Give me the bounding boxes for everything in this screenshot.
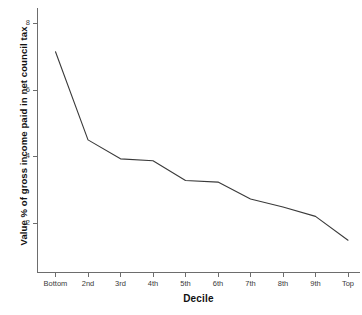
x-tick-label-6th: 6th — [213, 279, 223, 288]
plot-area: 8 6 4 2 Bottom 2nd 3rd 4th 5th 6th 7th — [0, 0, 362, 315]
x-axis-title: Decile — [37, 293, 360, 304]
x-tick-labels: Bottom 2nd 3rd 4th 5th 6th 7th 8th 9th T… — [44, 279, 354, 288]
data-series-line — [56, 52, 349, 241]
line-chart: 8 6 4 2 Bottom 2nd 3rd 4th 5th 6th 7th — [0, 0, 362, 315]
y-tick-marks — [33, 24, 38, 224]
x-tick-label-7th: 7th — [245, 279, 255, 288]
x-tick-label-9th: 9th — [310, 279, 320, 288]
x-tick-label-8th: 8th — [278, 279, 288, 288]
x-tick-label-2nd: 2nd — [82, 279, 95, 288]
x-tick-label-top: Top — [342, 279, 354, 288]
x-tick-label-5th: 5th — [180, 279, 190, 288]
x-tick-label-3rd: 3rd — [115, 279, 126, 288]
x-tick-label-4th: 4th — [148, 279, 158, 288]
x-tick-marks — [56, 273, 349, 278]
x-tick-label-bottom: Bottom — [44, 279, 68, 288]
y-axis-title: Value % of gross income paid in net coun… — [16, 0, 32, 272]
